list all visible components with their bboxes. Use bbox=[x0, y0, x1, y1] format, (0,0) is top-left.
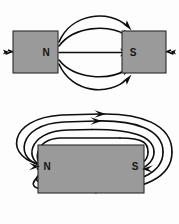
panel-two-magnets-attracting: N S bbox=[3, 16, 176, 90]
panel-single-bar-magnet-loops: N S bbox=[17, 110, 172, 194]
left-stub-arrow-icon bbox=[3, 50, 13, 55]
field-line-lower-inner-arc bbox=[59, 60, 131, 77]
left-magnet-block bbox=[13, 31, 58, 73]
bar-magnet-south-label: S bbox=[132, 161, 139, 172]
right-magnet-block bbox=[122, 31, 166, 73]
field-line-center-straight bbox=[59, 49, 131, 57]
magnetic-field-diagram: N S bbox=[0, 0, 179, 224]
diagram-canvas: N S bbox=[0, 0, 179, 224]
bar-magnet-north-label: N bbox=[43, 161, 50, 172]
right-magnet-pole-label: S bbox=[130, 47, 137, 58]
bar-magnet-block bbox=[38, 145, 144, 193]
right-stub-arrow-icon bbox=[166, 50, 176, 55]
left-magnet-pole-label: N bbox=[42, 47, 49, 58]
field-line-upper-inner-arc bbox=[59, 28, 131, 46]
